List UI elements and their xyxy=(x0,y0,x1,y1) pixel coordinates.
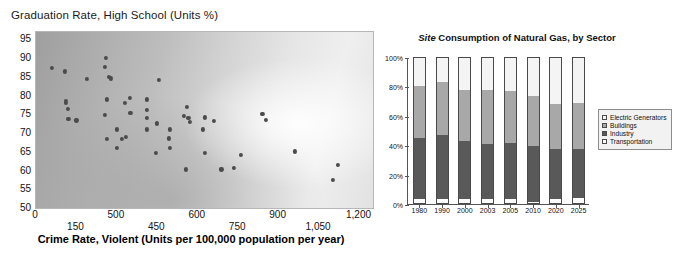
scatter-x-tick-label: 1,200 xyxy=(346,209,371,220)
scatter-point xyxy=(219,167,223,171)
scatter-y-tick-label: 95 xyxy=(20,33,31,44)
scatter-point xyxy=(103,56,107,60)
scatter-point xyxy=(188,119,192,123)
gas-x-tick-label: 1980 xyxy=(412,207,428,214)
scatter-point xyxy=(336,163,340,167)
scatter-point xyxy=(145,116,149,120)
gas-bar-segment-transportation xyxy=(573,198,584,203)
gas-bar-segment-industry xyxy=(528,146,539,201)
gas-legend: Electric GeneratorsBuildingsIndustryTran… xyxy=(598,109,672,150)
scatter-y-tick-label: 70 xyxy=(20,127,31,138)
scatter-point xyxy=(145,97,149,101)
gas-legend-swatch-industry xyxy=(602,131,607,136)
scatter-x-tick-label: 0 xyxy=(32,209,38,220)
gas-x-tick-label: 2020 xyxy=(548,207,564,214)
scatter-x-tick-label: 600 xyxy=(188,209,205,220)
scatter-point xyxy=(144,127,148,131)
scatter-point xyxy=(182,114,186,118)
gas-bar-segment-transportation xyxy=(414,199,425,203)
scatter-point xyxy=(105,137,109,141)
gas-bar-segment-industry xyxy=(482,144,493,198)
scatter-x-tick-label: 450 xyxy=(148,221,165,232)
scatter-point xyxy=(128,95,132,99)
scatter-point xyxy=(66,116,70,120)
gas-bar-segment-electric xyxy=(528,58,539,96)
gas-legend-label: Transportation xyxy=(610,138,652,145)
gas-bar-segment-transportation xyxy=(482,199,493,203)
scatter-point xyxy=(212,119,216,123)
scatter-point xyxy=(124,135,128,139)
gas-bar-segment-buildings xyxy=(528,96,539,147)
gas-x-tick-label: 2025 xyxy=(571,207,587,214)
scatter-chart-title: Graduation Rate, High School (Units %) xyxy=(11,9,218,21)
gas-bar-segment-buildings xyxy=(414,86,425,138)
scatter-point xyxy=(123,101,127,105)
scatter-point xyxy=(168,127,172,131)
scatter-point xyxy=(66,107,70,111)
gas-legend-label: Industry xyxy=(610,130,633,137)
scatter-point xyxy=(201,127,205,131)
dual-chart-figure: Graduation Rate, High School (Units %) 9… xyxy=(0,0,674,258)
scatter-x-tick-label: 150 xyxy=(67,221,84,232)
gas-bar-segment-buildings xyxy=(437,82,448,135)
scatter-y-tick-label: 65 xyxy=(20,145,31,156)
gas-chart-title-rest: Consumption of Natural Gas, by Sector xyxy=(436,32,616,43)
scatter-point xyxy=(264,118,268,122)
gas-y-tick-label: 100% xyxy=(385,55,403,62)
gas-bar-segment-transportation xyxy=(505,199,516,203)
scatter-y-axis-labels: 95908580757065605550 xyxy=(0,31,31,207)
scatter-point xyxy=(239,153,243,157)
gas-bar-segment-electric xyxy=(505,58,516,91)
scatter-point xyxy=(128,111,132,115)
scatter-point xyxy=(184,167,188,171)
scatter-chart: Graduation Rate, High School (Units %) 9… xyxy=(0,0,382,258)
gas-y-tick-label: 20% xyxy=(389,172,403,179)
gas-stacked-bar-chart: Site Consumption of Natural Gas, by Sect… xyxy=(386,0,674,258)
scatter-point xyxy=(74,118,78,122)
scatter-plot-area xyxy=(35,31,374,209)
gas-legend-item: Transportation xyxy=(602,138,668,145)
gas-bar-segment-industry xyxy=(550,149,561,198)
gas-bar xyxy=(549,57,562,204)
gas-legend-item: Buildings xyxy=(602,122,668,129)
gas-bar-segment-buildings xyxy=(550,104,561,149)
scatter-y-tick-label: 90 xyxy=(20,52,31,63)
scatter-point xyxy=(63,69,67,73)
gas-y-axis-labels: 0%20%40%60%80%100% xyxy=(386,58,405,205)
gas-legend-swatch-buildings xyxy=(602,123,607,128)
gas-x-tick-label: 2000 xyxy=(457,207,473,214)
gas-legend-label: Electric Generators xyxy=(610,114,666,121)
gas-bar xyxy=(527,57,540,204)
gas-x-tick-label: 1990 xyxy=(434,207,450,214)
gas-bar xyxy=(572,57,585,204)
scatter-x-axis-labels: 01505004506007509001,0501,200 xyxy=(35,208,375,234)
gas-bar-segment-transportation xyxy=(528,202,539,203)
scatter-y-tick-label: 60 xyxy=(20,164,31,175)
gas-x-tick-label: 2003 xyxy=(480,207,496,214)
scatter-point xyxy=(167,136,171,140)
scatter-point xyxy=(50,65,54,69)
scatter-point xyxy=(115,127,119,131)
gas-y-tick-label: 60% xyxy=(389,113,403,120)
scatter-point xyxy=(103,65,107,69)
gas-bar-segment-transportation xyxy=(550,199,561,203)
gas-y-tick xyxy=(405,205,409,206)
scatter-point xyxy=(330,177,334,181)
gas-bar-segment-buildings xyxy=(505,91,516,142)
gas-bar xyxy=(504,57,517,204)
scatter-point xyxy=(157,77,161,81)
gas-chart-title-italic: Site xyxy=(418,32,435,43)
scatter-point xyxy=(154,150,158,154)
gas-bar-segment-transportation xyxy=(459,199,470,203)
scatter-x-tick-label: 500 xyxy=(108,209,125,220)
gas-bar-segment-industry xyxy=(437,135,448,199)
gas-bar-segment-electric xyxy=(414,58,425,86)
scatter-point xyxy=(64,101,68,105)
gas-bar-segment-electric xyxy=(459,58,470,90)
scatter-point xyxy=(109,76,113,80)
scatter-y-tick-label: 75 xyxy=(20,108,31,119)
scatter-point xyxy=(293,149,297,153)
scatter-y-tick-label: 85 xyxy=(20,70,31,81)
scatter-y-tick-label: 50 xyxy=(20,202,31,213)
gas-bar-segment-buildings xyxy=(459,90,470,141)
